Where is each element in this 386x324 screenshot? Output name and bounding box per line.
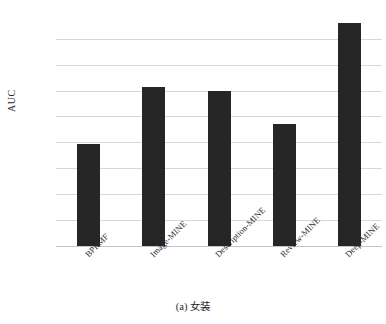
- clipped-header-text: ·· ···· ······· · ··· ········ ·····: [0, 0, 386, 5]
- gridline: [56, 39, 382, 40]
- clipped-fragment-3: ··· ········: [113, 0, 153, 4]
- bar: [338, 23, 361, 246]
- plot-area: 0.780.790.800.810.820.830.840.850.86BPRM…: [56, 18, 382, 246]
- figure-caption: (a) 女装: [0, 298, 386, 313]
- bar: [273, 124, 296, 246]
- clipped-fragment-4: ·····: [196, 0, 213, 4]
- bar: [77, 144, 100, 246]
- gridline: [56, 65, 382, 66]
- clipped-fragment-2: ······· ·: [52, 0, 82, 4]
- clipped-fragment-1: ·· ····: [6, 0, 29, 4]
- figure-panel: ·· ···· ······· · ··· ········ ····· AUC…: [0, 0, 386, 324]
- y-axis-title: AUC: [6, 89, 17, 112]
- bar: [208, 91, 231, 246]
- bar: [142, 87, 165, 246]
